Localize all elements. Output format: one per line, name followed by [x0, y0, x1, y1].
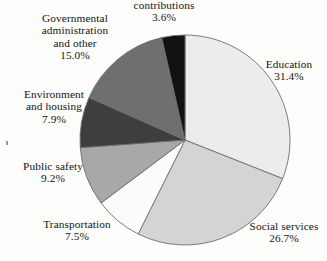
slice-label-environment-line2: and housing: [0, 100, 109, 112]
slice-label-public-safety-percent: 9.2%: [0, 172, 108, 184]
slice-label-contributions-name: contributions: [104, 0, 224, 11]
slice-label-governmental-line2: administration: [14, 24, 136, 36]
slice-label-governmental-line1: Governmental: [14, 12, 136, 24]
slice-label-transportation-percent: 7.5%: [20, 230, 134, 242]
slice-label-environment-housing: Environment and housing 7.9%: [0, 88, 109, 125]
slice-label-social-services: Social services 26.7%: [240, 220, 327, 245]
slice-label-education: Education 31.4%: [250, 58, 327, 83]
slice-label-environment-line1: Environment: [0, 88, 109, 100]
pie-chart-figure: contributions 3.6% Governmental administ…: [0, 0, 327, 261]
slice-label-environment-percent: 7.9%: [0, 113, 109, 125]
slice-label-transportation: Transportation 7.5%: [20, 218, 134, 243]
scan-artifact-mark: [6, 141, 8, 145]
slice-label-public-safety-name: Public safety: [0, 160, 108, 172]
slice-label-transportation-name: Transportation: [20, 218, 134, 230]
slice-label-education-percent: 31.4%: [250, 70, 327, 82]
slice-label-social-services-percent: 26.7%: [240, 232, 327, 244]
slice-label-public-safety: Public safety 9.2%: [0, 160, 108, 185]
slice-label-education-name: Education: [250, 58, 327, 70]
slice-label-social-services-name: Social services: [240, 220, 327, 232]
slice-label-governmental-percent: 15.0%: [14, 49, 136, 61]
slice-label-governmental-line3: and other: [14, 37, 136, 49]
slice-label-governmental-administration: Governmental administration and other 15…: [14, 12, 136, 62]
